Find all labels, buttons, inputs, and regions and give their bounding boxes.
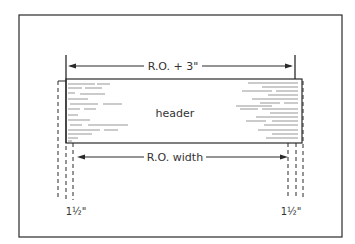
arrowhead-right-icon (280, 155, 288, 160)
arrowhead-left-icon (68, 64, 76, 69)
left-offset-label: 1½" (66, 206, 87, 217)
header-label: header (156, 107, 195, 120)
top-dimension-label: R.O. + 3" (148, 60, 199, 73)
right-offset-label: 1½" (281, 206, 302, 217)
bottom-dimension-label: R.O. width (147, 151, 203, 164)
header-diagram: header R.O. + 3" R.O. width 1½" 1½" (0, 0, 355, 244)
arrowhead-left-icon (77, 155, 85, 160)
bottom-dimension: R.O. width (77, 151, 288, 164)
header-board: header (66, 79, 302, 143)
arrowhead-right-icon (285, 64, 293, 69)
